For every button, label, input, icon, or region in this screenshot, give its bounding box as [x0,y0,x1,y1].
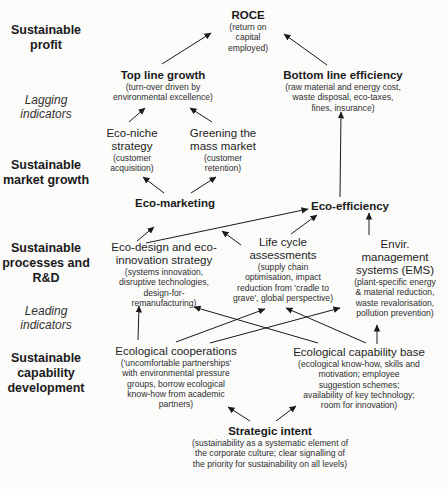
node-title: Top line growth [105,68,221,82]
arrow-ecocoop-to-lifecycle [176,309,265,342]
arrow-ecodesign-to-ecomarketing [137,227,154,241]
arrow-greening-to-topline [190,108,212,122]
arrow-ecomarketing-to-econiche [143,177,164,193]
node-eco-design-innovation: Eco-design and eco- innovation strategy … [103,241,225,308]
node-title: ROCE [200,8,296,22]
node-eco-efficiency: Eco-efficiency [305,199,395,213]
node-top-line-growth: Top line growth (turn-over driven by env… [105,68,221,103]
node-title: Eco-efficiency [305,199,395,213]
node-envir-management-systems: Envir. management systems (EMS) (plant-s… [342,238,448,318]
arrow-lifecycle-to-ecoefficiency [291,215,317,234]
node-greening-mass-market: Greening the mass market (customer reten… [183,127,263,174]
arrow-ecocoop-to-ems [210,308,340,343]
arrow-ecoefficiency-to-bottomline [340,112,341,197]
arrow-ecomarketing-to-greening [191,177,216,193]
node-eco-niche-strategy: Eco-niche strategy (customer acquisition… [96,127,168,174]
arrow-ecocoop-to-ecodesign [138,306,139,340]
node-title: Strategic intent [186,424,354,438]
node-strategic-intent: Strategic intent (sustainability as a sy… [186,424,354,469]
node-eco-marketing: Eco-marketing [130,196,220,210]
node-bottom-line-efficiency: Bottom line efficiency (raw material and… [268,68,418,113]
node-ecological-cooperations: Ecological cooperations ('uncomfortable … [106,345,246,409]
arrow-econiche-to-topline [129,108,145,122]
node-ecological-capability-base: Ecological capability base (ecological k… [284,346,434,410]
node-life-cycle-assessments: Life cycle assessments (supply chain opt… [223,236,343,303]
node-title: Bottom line efficiency [268,68,418,82]
node-title: Eco-marketing [130,196,220,210]
node-roce: ROCE (return on capital employed) [200,8,296,53]
